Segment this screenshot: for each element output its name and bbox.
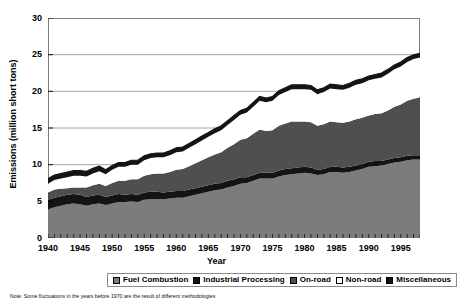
x-tick-label: 1995	[381, 243, 421, 253]
legend-item[interactable]: Miscellaneous	[386, 276, 451, 284]
footnote: Note: Some fluctuations in the years bef…	[10, 293, 215, 300]
legend-label: Fuel Combustion	[123, 276, 188, 284]
legend-swatch-icon	[336, 277, 343, 284]
legend-label: On-road	[300, 276, 331, 284]
y-tick-label: 0	[14, 234, 42, 243]
x-axis-labels: 1940194519501955196019651970197519801985…	[0, 243, 433, 255]
legend-item[interactable]: Non-road	[336, 276, 382, 284]
y-tick-label: 15	[14, 124, 42, 133]
y-tick-label: 5	[14, 197, 42, 206]
legend-item[interactable]: On-road	[290, 276, 331, 284]
x-axis-title: Year	[0, 256, 433, 266]
legend-label: Non-road	[346, 276, 382, 284]
y-tick-label: 30	[14, 14, 42, 23]
legend-swatch-icon	[193, 277, 200, 284]
legend-item[interactable]: Industrial Processing	[193, 276, 284, 284]
y-tick-label: 20	[14, 87, 42, 96]
y-tick-label: 25	[14, 50, 42, 59]
legend-swatch-icon	[386, 277, 393, 284]
legend-swatch-icon	[113, 277, 120, 284]
y-axis-title: Emissions (million short tons)	[8, 24, 18, 224]
y-tick-label: 10	[14, 160, 42, 169]
legend-item[interactable]: Fuel Combustion	[113, 276, 188, 284]
stacked-area-svg	[48, 18, 420, 238]
legend-swatch-icon	[290, 277, 297, 284]
plot-area	[48, 18, 420, 238]
legend-label: Industrial Processing	[203, 276, 284, 284]
chart-legend: Fuel CombustionIndustrial ProcessingOn-r…	[107, 273, 457, 287]
legend-label: Miscellaneous	[396, 276, 451, 284]
